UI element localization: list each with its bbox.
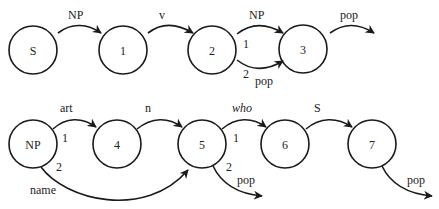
arrow-icon bbox=[237, 26, 283, 34]
arc-label: pop bbox=[255, 74, 273, 88]
arc-order: 2 bbox=[226, 160, 232, 174]
arrow-icon bbox=[222, 120, 266, 129]
node-label: 4 bbox=[114, 138, 120, 152]
diagram-canvas: S 1 2 3 NP v NP 1 2 p bbox=[0, 0, 439, 209]
arc-label: NP bbox=[68, 8, 84, 22]
arrow-icon bbox=[306, 120, 352, 129]
arc-order: 2 bbox=[243, 67, 249, 81]
arc-order: 1 bbox=[62, 131, 68, 145]
arc-label: who bbox=[232, 101, 252, 115]
node-2: 2 bbox=[188, 26, 236, 74]
arc-order: 1 bbox=[243, 37, 249, 51]
node-4: 4 bbox=[93, 120, 141, 168]
arrow-icon bbox=[137, 120, 182, 129]
arc-7-pop: pop bbox=[382, 166, 432, 196]
arrow-icon bbox=[53, 120, 96, 129]
arc-NP-4: art 1 bbox=[53, 101, 96, 145]
node-label: 2 bbox=[209, 44, 215, 58]
arc-S-1: NP bbox=[58, 8, 101, 33]
node-NP: NP bbox=[9, 120, 57, 168]
arrow-icon bbox=[330, 25, 374, 33]
np-network: NP 4 5 6 7 art 1 n 2 bbox=[9, 101, 432, 200]
arc-label: S bbox=[314, 101, 321, 115]
arc-2-3-first: NP 1 bbox=[237, 8, 283, 51]
node-label: S bbox=[30, 44, 37, 58]
arc-3-pop: pop bbox=[330, 8, 374, 33]
node-7: 7 bbox=[348, 120, 396, 168]
node-6: 6 bbox=[261, 120, 309, 168]
node-label: 3 bbox=[300, 43, 306, 57]
arc-label: pop bbox=[340, 8, 358, 22]
arc-label: pop bbox=[237, 173, 255, 187]
node-5: 5 bbox=[178, 120, 226, 168]
arc-1-2: v bbox=[148, 8, 193, 33]
node-label: 1 bbox=[120, 44, 126, 58]
arrow-icon bbox=[58, 25, 101, 33]
arrow-icon bbox=[41, 167, 188, 200]
transition-network-diagram: S 1 2 3 NP v NP 1 2 p bbox=[0, 0, 439, 209]
arc-label: art bbox=[60, 101, 73, 115]
arc-5-pop: 2 pop bbox=[213, 160, 262, 196]
s-network: S 1 2 3 NP v NP 1 2 p bbox=[9, 8, 374, 88]
node-1: 1 bbox=[99, 26, 147, 74]
node-S: S bbox=[9, 26, 57, 74]
arc-6-7: S bbox=[306, 101, 352, 129]
arc-4-5: n bbox=[137, 101, 182, 129]
node-label: NP bbox=[25, 138, 41, 152]
node-3: 3 bbox=[279, 25, 327, 73]
arc-order: 2 bbox=[56, 160, 62, 174]
arc-label: pop bbox=[407, 173, 425, 187]
arc-label: n bbox=[145, 101, 151, 115]
arc-label: NP bbox=[249, 8, 265, 22]
node-label: 7 bbox=[369, 138, 375, 152]
arc-2-3-second: 2 pop bbox=[237, 60, 283, 88]
arc-order: 1 bbox=[233, 131, 239, 145]
node-label: 6 bbox=[282, 138, 288, 152]
arc-5-6: who 1 bbox=[222, 101, 266, 145]
node-label: 5 bbox=[199, 138, 205, 152]
arc-label: v bbox=[159, 8, 165, 22]
arrow-icon bbox=[148, 25, 193, 33]
arc-label: name bbox=[30, 183, 56, 197]
